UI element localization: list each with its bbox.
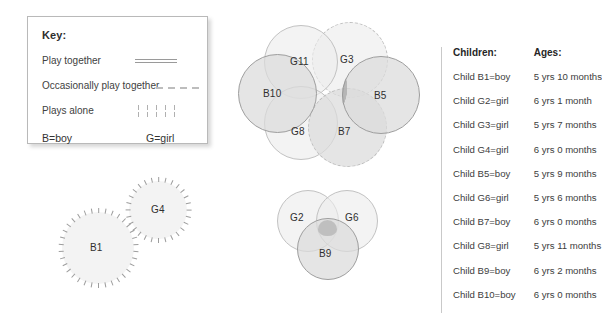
circle-label-B10: B10	[263, 88, 281, 99]
cell-child: Child G2=girl	[453, 95, 516, 119]
cell-age: 5 yrs 11 months	[516, 240, 602, 264]
cell-age: 6 yrs 0 months	[516, 144, 602, 168]
cell-age: 5 yrs 9 months	[516, 168, 602, 192]
radial-tick	[176, 232, 180, 237]
key-boy-legend: B=boy	[42, 132, 72, 144]
radial-tick	[132, 189, 137, 193]
radial-tick	[144, 235, 147, 240]
children-ages-table: Children: Ages: Child B1=boy5 yrs 10 mon…	[453, 47, 602, 313]
radial-tick	[138, 232, 142, 237]
radial-tick	[164, 237, 166, 242]
radial-tick	[164, 178, 166, 183]
radial-tick	[98, 208, 99, 213]
radial-tick	[60, 257, 65, 260]
table-row: Child G6=girl5 yrs 6 months	[453, 192, 602, 216]
radial-tick	[60, 236, 65, 239]
cell-age: 5 yrs 6 months	[516, 192, 602, 216]
children-ages-table-panel: Children: Ages: Child B1=boy5 yrs 10 mon…	[441, 47, 599, 313]
radial-tick	[144, 180, 147, 185]
cell-child: Child B1=boy	[453, 71, 516, 95]
table-row: Child B1=boy5 yrs 10 months	[453, 71, 602, 95]
dash-segment	[168, 87, 175, 89]
radial-tick	[132, 257, 137, 260]
cell-age: 5 yrs 10 months	[516, 71, 602, 95]
cell-age: 6 yrs 1 month	[516, 95, 602, 119]
circle-label-B1: B1	[90, 242, 103, 253]
radial-tick	[59, 244, 64, 246]
key-row-play-together-label: Play together	[42, 55, 101, 66]
tick-segment	[165, 105, 166, 110]
radial-tick	[117, 277, 121, 282]
radial-tick	[84, 280, 87, 285]
radial-tick	[63, 230, 68, 233]
radial-tick	[129, 195, 134, 198]
radial-tick	[122, 273, 126, 277]
cell-child: Child G6=girl	[453, 192, 516, 216]
radial-tick	[126, 223, 131, 227]
column-header-children: Children:	[453, 47, 516, 71]
radial-tick	[91, 209, 93, 214]
radial-tick	[66, 269, 71, 273]
circle-label-G8: G8	[291, 126, 305, 137]
radial-tick	[66, 223, 71, 227]
tick-segment	[156, 112, 157, 117]
key-panel: Key: Play together Occasionally play tog…	[27, 16, 208, 144]
circle-label-G3: G3	[340, 54, 354, 65]
radial-tick	[63, 263, 68, 266]
dash-segment	[156, 87, 163, 89]
radial-tick	[186, 202, 191, 204]
table-row: Child B5=boy5 yrs 9 months	[453, 168, 602, 192]
radial-tick	[126, 209, 131, 210]
radial-tick	[91, 282, 93, 287]
radial-tick	[77, 277, 81, 282]
tick-segment	[147, 105, 148, 110]
radial-tick	[187, 209, 192, 210]
radial-tick	[98, 283, 99, 288]
tick-segment	[138, 105, 139, 110]
dash-segment	[192, 87, 199, 89]
cell-age: 6 yrs 0 months	[516, 216, 602, 240]
column-header-ages: Ages:	[516, 47, 602, 71]
tick-marks-icon	[138, 105, 182, 118]
circle-label-G4: G4	[151, 204, 165, 215]
five-child-cluster: G11 G3 B10 B5 G8 B7	[238, 22, 423, 167]
radial-tick	[170, 180, 173, 185]
radial-tick	[130, 263, 135, 266]
key-row-occasionally-play-label: Occasionally play together	[42, 80, 159, 91]
table-row: Child B9=boy6 yrs 2 months	[453, 265, 602, 289]
table-row: Child B7=boy6 yrs 0 months	[453, 216, 602, 240]
cell-child: Child G3=girl	[453, 119, 516, 143]
radial-tick	[132, 236, 137, 239]
cell-child: Child B5=boy	[453, 168, 516, 192]
radial-tick	[133, 251, 138, 253]
radial-tick	[104, 282, 106, 287]
cell-child: Child B9=boy	[453, 265, 516, 289]
three-child-cluster: G2 G6 B9	[277, 190, 387, 290]
radial-tick	[186, 216, 191, 218]
table-row: Child B10=boy6 yrs 0 months	[453, 289, 602, 313]
radial-tick	[180, 227, 185, 231]
key-row-plays-alone-label: Plays alone	[42, 105, 94, 116]
cell-child: Child B10=boy	[453, 289, 516, 313]
table-row: Child G3=girl5 yrs 7 months	[453, 119, 602, 143]
radial-tick	[184, 222, 189, 225]
radial-tick	[151, 178, 153, 183]
tick-segment	[174, 105, 175, 110]
circle-label-B7: B7	[338, 126, 351, 137]
radial-tick	[126, 269, 131, 273]
cell-age: 6 yrs 2 months	[516, 265, 602, 289]
radial-tick	[158, 238, 159, 243]
table-left-rule	[441, 47, 442, 313]
radial-tick	[180, 189, 185, 193]
radial-tick	[71, 273, 75, 277]
table-row: Child G8=girl5 yrs 11 months	[453, 240, 602, 264]
dashed-line-icon	[156, 87, 200, 90]
radial-tick	[104, 209, 106, 214]
radial-tick	[77, 214, 81, 219]
circle-label-B9: B9	[319, 248, 332, 259]
cell-child: Child G4=girl	[453, 144, 516, 168]
circle-label-B5: B5	[374, 90, 387, 101]
radial-tick	[117, 214, 121, 219]
cell-age: 5 yrs 7 months	[516, 119, 602, 143]
tick-segment	[147, 112, 148, 117]
